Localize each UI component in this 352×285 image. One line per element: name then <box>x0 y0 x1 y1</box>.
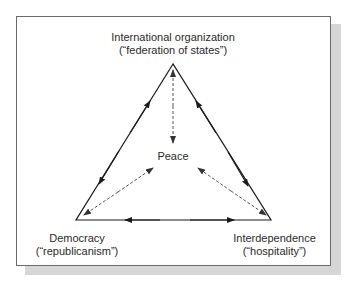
node-bottom-right-title: Interdependence <box>222 232 327 245</box>
node-international-organization: International organization (“federation … <box>73 31 273 57</box>
node-top-title: International organization <box>73 31 273 44</box>
node-interdependence: Interdependence (“hospitality”) <box>222 232 327 258</box>
node-peace: Peace <box>143 150 203 163</box>
node-bottom-right-subtitle: (“hospitality”) <box>222 245 327 258</box>
node-democracy: Democracy (“republicanism”) <box>27 232 127 258</box>
node-bottom-left-subtitle: (“republicanism”) <box>27 245 127 258</box>
dashed-peace-left <box>118 168 153 192</box>
dashed-peace-right <box>198 168 231 191</box>
node-bottom-left-title: Democracy <box>27 232 127 245</box>
edge-top-right-arrows <box>196 101 248 186</box>
node-center-title: Peace <box>143 150 203 163</box>
peace-dashed-edges <box>84 70 266 215</box>
node-top-subtitle: (“federation of states”) <box>73 44 273 57</box>
